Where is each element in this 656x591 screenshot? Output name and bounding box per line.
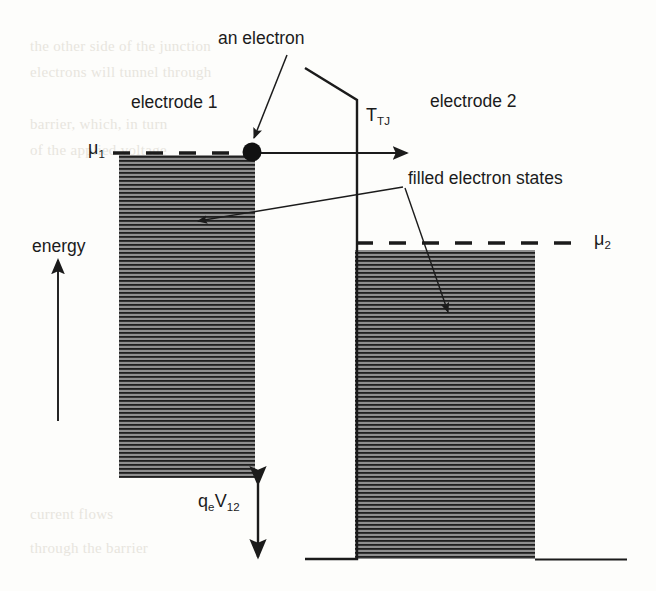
mu1-subscript: 1 [98, 148, 105, 160]
mu1-base: μ [88, 138, 98, 158]
electrode-1-filled-band [119, 155, 255, 478]
label-energy-axis: energy [32, 238, 86, 256]
label-mu2: μ2 [594, 230, 611, 248]
bias-12-subscript: 12 [227, 501, 240, 513]
electrode-2-filled-band [355, 250, 535, 559]
label-tunnel-transmission: TTJ [366, 106, 390, 124]
tunnel-barrier [305, 68, 357, 559]
an-electron-leader [254, 55, 287, 138]
label-electrode-2: electrode 2 [430, 93, 517, 111]
mu2-base: μ [594, 229, 604, 249]
bias-v: V [215, 491, 227, 511]
bias-q: q [198, 491, 208, 511]
tunnel-junction-figure: the other side of the junction electrons… [0, 0, 656, 591]
label-an-electron: an electron [218, 30, 305, 48]
label-mu1: μ1 [88, 139, 105, 157]
ttj-base: T [366, 105, 377, 125]
label-bias-energy: qeV12 [198, 492, 240, 510]
bias-e-subscript: e [208, 501, 215, 513]
label-electrode-1: electrode 1 [131, 94, 218, 112]
diagram-canvas [0, 0, 656, 591]
electron-dot-icon [243, 143, 262, 162]
ttj-subscript: TJ [377, 115, 390, 127]
label-filled-electron-states: filled electron states [408, 170, 563, 188]
mu2-subscript: 2 [604, 239, 611, 251]
